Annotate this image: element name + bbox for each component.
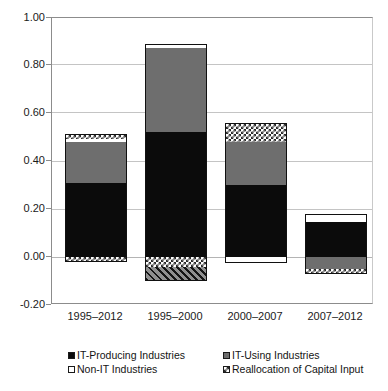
y-axis-tick-mark (46, 304, 51, 305)
legend-swatch-checkered-icon (223, 366, 230, 373)
legend-swatch-solid-gray-icon (223, 352, 230, 359)
bar-stack (145, 44, 207, 281)
y-axis-tick-label: 0.60 (1, 107, 45, 118)
bar-segment-it-using-industries (65, 142, 127, 183)
bar-group-2007-2012[interactable] (305, 18, 367, 303)
chart-legend: IT-Producing Industries IT-Using Industr… (68, 349, 368, 377)
bar-group-2000-2007[interactable] (225, 18, 287, 303)
y-axis-tick-label: 0.40 (1, 155, 45, 166)
bar-segment-it-producing-industries (305, 222, 367, 257)
bar-segment-non-it-industries (305, 214, 367, 222)
bar-segment-reallocation-of-capital-input (305, 269, 367, 274)
x-axis-tick-label-2007-2012: 2007–2012 (291, 310, 379, 322)
bar-segment-it-using-industries (305, 257, 367, 269)
y-axis-tick-label: -0.20 (1, 299, 45, 310)
y-axis-tick-label: 1.00 (1, 12, 45, 23)
bar-segment-reallocation-of-capital-input (225, 257, 287, 263)
bar-segment-it-producing-industries (225, 185, 287, 257)
legend-label: IT-Producing Industries (77, 349, 185, 361)
bar-segment-non-it-industries (145, 257, 207, 267)
bar-stack (65, 134, 127, 262)
bar-segment-it-producing-industries (145, 132, 207, 257)
legend-entry-non-it-industries: Non-IT Industries (68, 363, 223, 375)
bar-segment-non-it-industries (225, 123, 287, 142)
legend-row: Non-IT Industries Reallocation of Capita… (68, 363, 368, 375)
y-axis-tick-label: 0.00 (1, 251, 45, 262)
legend-row: IT-Producing Industries IT-Using Industr… (68, 349, 368, 361)
stacked-bar-chart: 1.00 0.80 0.60 0.40 0.20 0.00 -0.20 (0, 0, 388, 391)
y-axis-tick-label: 0.20 (1, 203, 45, 214)
legend-entry-reallocation-of-capital-input: Reallocation of Capital Input (223, 363, 368, 375)
bar-stack (305, 214, 367, 274)
legend-label: Reallocation of Capital Input (232, 363, 363, 375)
legend-entry-it-producing-industries: IT-Producing Industries (68, 349, 223, 361)
plot-area (51, 17, 373, 304)
x-axis-tick-label-1995-2012: 1995–2012 (51, 310, 139, 322)
bar-segment-it-producing-industries (65, 183, 127, 257)
y-axis-tick-label: 0.80 (1, 59, 45, 70)
bar-segment-it-using-industries (145, 48, 207, 132)
legend-entry-it-using-industries: IT-Using Industries (223, 349, 368, 361)
legend-label: Non-IT Industries (77, 363, 157, 375)
bar-group-1995-2012[interactable] (65, 18, 127, 303)
bar-segment-reallocation-of-capital-input (65, 257, 127, 262)
x-axis-tick-label-2000-2007: 2000–2007 (211, 310, 299, 322)
bar-stack (225, 123, 287, 263)
x-axis-tick-label-1995-2000: 1995–2000 (131, 310, 219, 322)
legend-swatch-solid-white-icon (68, 366, 75, 373)
legend-swatch-solid-black-icon (68, 352, 75, 359)
bar-group-1995-2000[interactable] (145, 18, 207, 303)
legend-label: IT-Using Industries (232, 349, 320, 361)
bar-segment-reallocation-of-capital-input (145, 267, 207, 281)
bar-segment-it-using-industries (225, 142, 287, 185)
